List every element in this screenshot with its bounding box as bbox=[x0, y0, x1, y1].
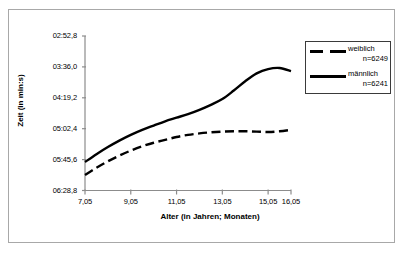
y-tick-label: 02:52,8 bbox=[33, 31, 77, 40]
series-line-weiblich bbox=[85, 130, 291, 175]
legend-label: weiblich bbox=[348, 44, 375, 54]
y-tick-label: 04:19,2 bbox=[33, 93, 77, 102]
x-tick-label: 13,05 bbox=[205, 197, 239, 206]
chart-legend: weiblich n=6249 männlich n=6241 bbox=[305, 41, 391, 94]
y-tick-label: 06:28,8 bbox=[33, 186, 77, 195]
series-line-männlich bbox=[85, 68, 291, 162]
x-tick-label: 16,05 bbox=[274, 197, 308, 206]
legend-item-maennlich: männlich n=6241 bbox=[306, 69, 392, 91]
x-tick-label: 7,05 bbox=[68, 197, 102, 206]
x-axis-title: Alter (in Jahren; Monaten) bbox=[95, 212, 325, 221]
x-tick-label: 11,05 bbox=[160, 197, 194, 206]
chart-screenshot: 02:52,803:36,004:19,205:02,405:45,606:28… bbox=[0, 0, 404, 261]
y-axis-title: Zeit (in min:s) bbox=[16, 63, 25, 139]
data-series-layer bbox=[85, 68, 291, 175]
legend-count: n=6249 bbox=[348, 54, 388, 64]
legend-count: n=6241 bbox=[348, 79, 388, 89]
x-tick-label: 9,05 bbox=[114, 197, 148, 206]
y-tick-label: 05:02,4 bbox=[33, 124, 77, 133]
legend-key-solid-icon bbox=[310, 75, 346, 78]
legend-label: männlich bbox=[348, 69, 378, 79]
y-tick-label: 03:36,0 bbox=[33, 62, 77, 71]
legend-item-weiblich: weiblich n=6249 bbox=[306, 44, 392, 66]
legend-key-dashed-icon bbox=[310, 50, 346, 53]
y-tick-label: 05:45,6 bbox=[33, 155, 77, 164]
